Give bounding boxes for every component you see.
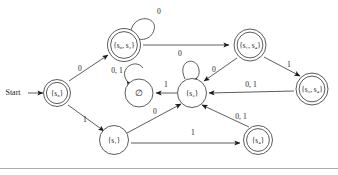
state-label: {s₃} [186, 89, 199, 98]
edge-label: 0 [178, 49, 182, 58]
transition-s1-to-s3: 0 [127, 104, 181, 133]
state-label: {s₀, s₂} [113, 41, 135, 50]
state-s3[interactable]: {s₃} [178, 79, 207, 108]
state-s4[interactable]: {s₄} [244, 126, 273, 155]
state-label: ∅ [135, 88, 143, 98]
state-s0s2[interactable]: {s₀, s₂} [108, 29, 141, 62]
edge-label: 0, 1 [111, 66, 123, 75]
state-label: {s₀} [51, 89, 64, 98]
edge-label: 0, 1 [235, 112, 247, 121]
transition-s3-to-emptyset: 1 [156, 80, 177, 93]
transition-s3-self-loop: 0 [178, 49, 199, 80]
start-label: Start [5, 88, 21, 97]
state-label: {s₃, s₄} [301, 85, 323, 94]
state-s1[interactable]: {s₁} [100, 126, 129, 155]
state-s0[interactable]: {s₀} [44, 80, 71, 107]
state-label: {s₁, s₄} [239, 41, 261, 50]
state-emptyset[interactable]: ∅ [125, 79, 153, 107]
transition-s3s4-to-s3: 0, 1 [209, 80, 294, 93]
edge-label: 1 [287, 60, 291, 69]
edge-label: 0, 1 [245, 80, 257, 89]
transition-s0-to-s1: 1 [68, 105, 104, 131]
transition-emptyset-self-loop: 0, 1 [111, 64, 143, 81]
state-s3s4[interactable]: {s₃, s₄} [296, 73, 328, 105]
state-label: {s₄} [252, 136, 265, 145]
edge-label: 0 [157, 7, 161, 16]
state-s1s4[interactable]: {s₁, s₄} [234, 29, 266, 61]
transition-s1-to-s4: 1 [131, 128, 240, 143]
transition-s0-to-s0s2: 0 [69, 55, 108, 81]
edge-label: 1 [164, 80, 168, 89]
figure-canvas: Start 0 1 0 0 1 [0, 0, 338, 175]
edge-label: 0 [212, 65, 216, 74]
transition-s1s4-to-s3s4: 1 [264, 57, 300, 76]
transition-s1s4-to-s3: 0 [204, 58, 237, 81]
transition-s4-to-s3: 0, 1 [202, 105, 249, 127]
edge-label: 0 [153, 107, 157, 116]
edge-label: 0 [78, 64, 82, 73]
state-label: {s₁} [108, 136, 121, 145]
edge-label: 1 [83, 115, 87, 124]
state-diagram: Start 0 1 0 0 1 [0, 0, 338, 175]
edge-label: 1 [191, 128, 195, 137]
